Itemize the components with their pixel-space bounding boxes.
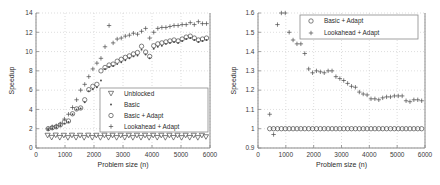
- data-point: [392, 94, 396, 98]
- data-point: [95, 61, 99, 65]
- y-tick-label: 4: [29, 106, 33, 113]
- data-point: [404, 99, 408, 103]
- plus-marker-icon: [95, 61, 99, 65]
- data-point: [172, 23, 176, 27]
- data-point: [106, 135, 111, 140]
- data-point: [73, 135, 78, 140]
- data-point: [80, 108, 82, 110]
- data-point: [160, 25, 164, 29]
- plus-marker-icon: [139, 29, 143, 33]
- data-point: [160, 41, 164, 45]
- data-point: [123, 34, 127, 38]
- plus-marker-icon: [271, 132, 275, 136]
- plus-marker-icon: [291, 38, 295, 42]
- data-point: [99, 56, 103, 60]
- triangle-down-marker-icon: [155, 135, 160, 140]
- data-point: [334, 74, 338, 78]
- data-point: [291, 38, 295, 42]
- data-point: [95, 82, 99, 86]
- data-point: [107, 23, 111, 27]
- data-point: [57, 135, 62, 140]
- data-point: [135, 50, 139, 54]
- triangle-down-marker-icon: [138, 135, 143, 140]
- data-point: [110, 104, 112, 106]
- plus-marker-icon: [267, 112, 271, 116]
- data-point: [66, 112, 70, 116]
- data-point: [188, 20, 192, 24]
- data-point: [180, 22, 184, 26]
- triangle-down-marker-icon: [163, 136, 168, 141]
- plus-marker-icon: [99, 56, 103, 60]
- plus-marker-icon: [365, 93, 369, 97]
- data-point: [179, 136, 184, 141]
- data-point: [310, 71, 314, 75]
- data-point: [192, 22, 196, 26]
- plus-marker-icon: [74, 98, 78, 102]
- data-point: [147, 36, 151, 40]
- dot-marker-icon: [80, 108, 82, 110]
- y-tick-label: 1.2: [245, 86, 254, 93]
- data-point: [306, 67, 310, 71]
- x-tick-label: 5000: [174, 151, 189, 158]
- data-point: [330, 69, 334, 73]
- data-point: [98, 136, 103, 141]
- data-point: [388, 95, 392, 99]
- x-tick-label: 4000: [145, 151, 160, 158]
- data-point: [345, 81, 349, 85]
- y-tick-label: 0: [29, 144, 33, 151]
- legend-item-label: Basic + Adapt: [124, 112, 163, 120]
- plus-marker-icon: [416, 98, 420, 102]
- data-point: [204, 21, 208, 25]
- data-point: [76, 108, 78, 110]
- data-point: [200, 21, 204, 25]
- data-point: [171, 135, 176, 140]
- plus-marker-icon: [160, 25, 164, 29]
- dot-marker-icon: [141, 49, 143, 51]
- legend: UnblockedBasicBasic + AdaptLookahead + A…: [100, 88, 208, 132]
- data-point: [412, 98, 416, 102]
- data-point: [164, 25, 168, 29]
- y-tick-label: 14: [25, 9, 33, 16]
- plus-marker-icon: [338, 76, 342, 80]
- plus-marker-icon: [377, 98, 381, 102]
- data-point: [130, 136, 135, 141]
- plus-marker-icon: [400, 94, 404, 98]
- data-point: [83, 82, 87, 86]
- dot-marker-icon: [68, 121, 70, 123]
- y-axis-title: Speedup: [230, 66, 238, 94]
- circle-marker-icon: [156, 42, 160, 46]
- plus-marker-icon: [303, 51, 307, 55]
- data-point: [147, 136, 152, 141]
- plus-marker-icon: [143, 26, 147, 30]
- x-tick-label: 6000: [203, 151, 218, 158]
- plus-marker-icon: [334, 74, 338, 78]
- y-tick-label: 1.1: [245, 106, 254, 113]
- data-point: [143, 26, 147, 30]
- plus-marker-icon: [115, 37, 119, 41]
- x-tick-label: 6000: [418, 151, 433, 158]
- data-point: [279, 11, 283, 15]
- data-point: [114, 136, 119, 141]
- plus-marker-icon: [404, 99, 408, 103]
- plus-marker-icon: [78, 88, 82, 92]
- triangle-down-marker-icon: [187, 135, 192, 140]
- plus-marker-icon: [164, 25, 168, 29]
- plus-marker-icon: [306, 67, 310, 71]
- plus-marker-icon: [388, 95, 392, 99]
- figure-container: 024681012140100020003000400050006000Prob…: [0, 0, 440, 185]
- series-unblocked: [45, 133, 209, 140]
- data-point: [155, 135, 160, 140]
- data-point: [195, 136, 200, 141]
- data-point: [131, 31, 135, 35]
- plus-marker-icon: [119, 36, 123, 40]
- plus-marker-icon: [396, 94, 400, 98]
- plus-marker-icon: [196, 19, 200, 23]
- plus-marker-icon: [87, 74, 91, 78]
- data-point: [338, 76, 342, 80]
- data-point: [111, 41, 115, 45]
- data-point: [87, 74, 91, 78]
- plus-marker-icon: [152, 30, 156, 34]
- plus-marker-icon: [180, 22, 184, 26]
- plus-marker-icon: [168, 24, 172, 28]
- x-tick-label: 0: [34, 151, 38, 158]
